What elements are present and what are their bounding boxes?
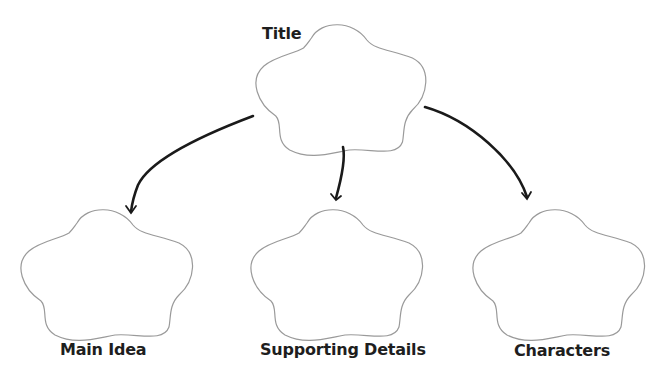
story-map-diagram: Title Main Idea Supporting Details Chara… <box>0 0 659 373</box>
supporting-details-bubble[interactable] <box>251 210 423 341</box>
arrow-to-characters <box>425 107 531 199</box>
diagram-graphics <box>0 0 659 373</box>
main-idea-bubble[interactable] <box>21 210 193 341</box>
arrow-to-main-idea <box>126 116 253 213</box>
main-idea-label: Main Idea <box>60 340 146 359</box>
arrow-to-supporting-details <box>331 147 344 200</box>
title-bubble[interactable] <box>256 25 426 156</box>
supporting-details-label: Supporting Details <box>260 340 426 359</box>
characters-bubble[interactable] <box>473 210 645 341</box>
title-label: Title <box>262 24 301 43</box>
characters-label: Characters <box>514 341 610 360</box>
